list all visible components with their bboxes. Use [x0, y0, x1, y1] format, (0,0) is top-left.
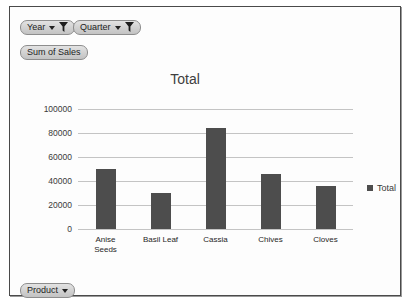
field-button-year[interactable]: Year [20, 20, 75, 35]
pivot-chart-frame: Year Quarter Sum of Sales Product Total … [9, 6, 401, 296]
x-axis-category-label: Cassia [190, 235, 242, 245]
gridline [78, 229, 353, 230]
filter-funnel-icon [59, 22, 68, 34]
bar[interactable] [96, 169, 116, 229]
legend-label: Total [377, 183, 396, 193]
field-button-sum-of-sales[interactable]: Sum of Sales [20, 45, 88, 60]
bar[interactable] [206, 128, 226, 229]
filter-funnel-icon [125, 22, 134, 34]
y-axis-tick-label: 60000 [48, 152, 72, 162]
field-button-quarter-label: Quarter [80, 23, 111, 32]
y-axis-tick-label: 80000 [48, 128, 72, 138]
y-axis-tick-label: 20000 [48, 200, 72, 210]
chevron-down-icon [49, 26, 55, 30]
bar[interactable] [151, 193, 171, 229]
x-axis-category-label: Cloves [300, 235, 352, 245]
x-axis-category-label: Anise Seeds [80, 235, 132, 255]
x-axis-category-label: Basil Leaf [135, 235, 187, 245]
field-button-product-label: Product [27, 286, 58, 295]
y-axis-tick-label: 40000 [48, 176, 72, 186]
x-axis-category-label: Chives [245, 235, 297, 245]
field-button-sum-of-sales-label: Sum of Sales [27, 48, 81, 57]
chart-legend: Total [367, 183, 396, 193]
field-button-product[interactable]: Product [20, 283, 75, 298]
gridline [78, 109, 353, 110]
chevron-down-icon [115, 26, 121, 30]
y-axis-tick-label: 100000 [44, 104, 72, 114]
chart-title: Total [20, 71, 350, 87]
chevron-down-icon [62, 289, 68, 293]
plot-area: 020000400006000080000100000Anise SeedsBa… [78, 109, 353, 229]
chart-area: Total 020000400006000080000100000Anise S… [20, 65, 390, 265]
bar[interactable] [316, 186, 336, 229]
field-button-quarter[interactable]: Quarter [73, 20, 141, 35]
legend-swatch [367, 185, 373, 191]
y-axis-tick-label: 0 [67, 224, 72, 234]
bar[interactable] [261, 174, 281, 229]
field-button-year-label: Year [27, 23, 45, 32]
